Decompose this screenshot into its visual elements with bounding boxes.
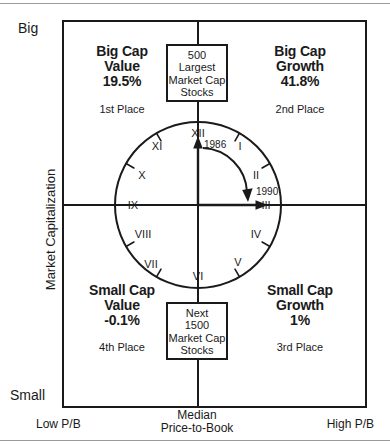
quadrant-rank: 3rd Place: [240, 341, 360, 353]
axis-label-small: Small: [10, 387, 45, 403]
clock-numeral-IV: IV: [246, 228, 266, 240]
annotation-box-top-line2: Largest: [168, 61, 226, 73]
annotation-box-bottom: Next 1500 Market Cap Stocks: [166, 302, 228, 360]
quadrant-small-cap-growth: Small Cap Growth 1% 3rd Place: [240, 283, 360, 353]
y-axis-title: Market Capitalization: [43, 150, 58, 310]
page-rule-top: [0, 3, 390, 4]
annotation-box-bottom-line3: Market Cap: [168, 332, 226, 344]
quadrant-title-line2: Growth: [240, 298, 360, 313]
clock-numeral-II: II: [247, 169, 265, 181]
axis-label-big: Big: [18, 20, 38, 36]
quadrant-big-cap-value: Big Cap Value 19.5% 1st Place: [62, 44, 182, 115]
clock-year-start-label: 1986: [204, 139, 226, 150]
quadrant-title-line2: Growth: [240, 59, 360, 74]
annotation-box-top-line3: Market Cap: [168, 74, 226, 86]
quadrant-value: 41.8%: [240, 74, 360, 89]
x-axis-title-line2: Price-to-Book: [132, 422, 262, 435]
axis-label-low-pb: Low P/B: [36, 417, 81, 431]
annotation-box-top-line4: Stocks: [168, 86, 226, 98]
clock-numeral-XI: XI: [147, 140, 167, 152]
clock-numeral-III: III: [255, 199, 277, 211]
annotation-box-bottom-line4: Stocks: [168, 344, 226, 356]
quadrant-title: Big Cap Value 19.5%: [62, 44, 182, 89]
annotation-box-top: 500 Largest Market Cap Stocks: [166, 44, 228, 102]
quadrant-big-cap-growth: Big Cap Growth 41.8% 2nd Place: [240, 44, 360, 115]
quadrant-rank: 4th Place: [62, 341, 182, 353]
x-axis-title: Median Price-to-Book: [132, 409, 262, 435]
quadrant-rank: 1st Place: [62, 103, 182, 115]
quadrant-value: 1%: [240, 313, 360, 328]
annotation-box-bottom-line1: Next: [168, 307, 226, 319]
clock-numeral-VIII: VIII: [129, 228, 157, 240]
annotation-box-top-line1: 500: [168, 49, 226, 61]
quadrant-rank: 2nd Place: [240, 103, 360, 115]
quadrant-small-cap-value: Small Cap Value -0.1% 4th Place: [62, 283, 182, 353]
quadrant-title-line2: Value: [62, 298, 182, 313]
axis-horizontal-median: [62, 204, 367, 206]
clock-numeral-X: X: [134, 169, 150, 181]
quadrant-title-line2: Value: [62, 59, 182, 74]
clock-numeral-XII: XII: [185, 127, 211, 139]
quadrant-title: Small Cap Growth 1%: [240, 283, 360, 328]
clock-year-end-label: 1990: [256, 186, 278, 197]
annotation-box-bottom-line2: 1500: [168, 319, 226, 331]
quadrant-title-line1: Small Cap: [240, 283, 360, 298]
clock-numeral-VI: VI: [187, 270, 209, 282]
quadrant-title: Small Cap Value -0.1%: [62, 283, 182, 328]
clock-numeral-IX: IX: [123, 199, 143, 211]
quadrant-value: 19.5%: [62, 74, 182, 89]
quadrant-value: -0.1%: [62, 313, 182, 328]
clock-numeral-VII: VII: [139, 258, 163, 270]
quadrant-title: Big Cap Growth 41.8%: [240, 44, 360, 89]
quadrant-title-line1: Big Cap: [62, 44, 182, 59]
page-rule-bottom: [0, 440, 390, 441]
quadrant-title-line1: Big Cap: [240, 44, 360, 59]
axis-label-high-pb: High P/B: [327, 417, 374, 431]
clock-numeral-I: I: [232, 140, 248, 152]
clock-numeral-V: V: [230, 256, 246, 268]
quadrant-title-line1: Small Cap: [62, 283, 182, 298]
